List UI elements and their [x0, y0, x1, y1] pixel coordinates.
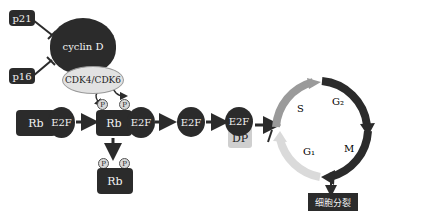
phosphate-2: P	[119, 99, 130, 110]
p21-box: p21	[9, 10, 35, 26]
e2f-complex2: E2F	[127, 107, 155, 138]
cell-division-box: 细胞分裂	[308, 193, 358, 211]
e2f-free: E2F	[177, 107, 205, 137]
cyclin-d: cyclin D	[50, 18, 116, 74]
phase-g2: G₂	[332, 96, 344, 107]
rb-free: Rb	[97, 168, 133, 194]
phase-s: S	[297, 103, 304, 114]
phase-g1: G₁	[303, 146, 315, 157]
cdk4-cdk6: CDK4/CDK6	[62, 66, 124, 94]
p16-box: p16	[9, 68, 35, 84]
phase-m: M	[344, 143, 354, 154]
phosphate-1: P	[97, 99, 108, 110]
e2f-complex1: E2F	[48, 107, 75, 138]
cell-cycle-diagram: p21 p16 cyclin D CDK4/CDK6 Rb E2F P P Rb…	[0, 0, 432, 220]
e2f-dp: E2F	[225, 107, 253, 136]
